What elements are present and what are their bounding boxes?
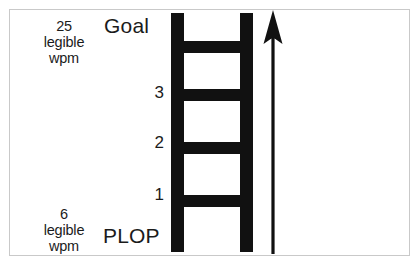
ladder-graphic <box>0 0 420 264</box>
ladder-rung-two <box>171 142 253 154</box>
ladder-rung-three <box>171 89 253 101</box>
upward-arrow-icon <box>258 8 288 256</box>
diagram-canvas: 25 legible wpm 6 legible wpm Goal PLOP 3… <box>0 0 420 264</box>
ladder-rung-one <box>171 195 253 207</box>
ladder-rung-top <box>171 41 253 53</box>
